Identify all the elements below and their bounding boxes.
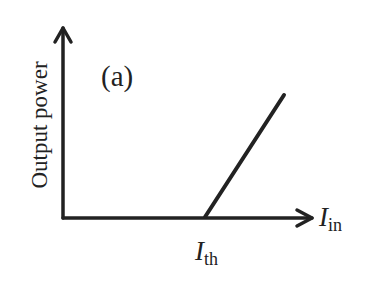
y-axis-label: Output power — [27, 61, 53, 188]
panel-label: (a) — [101, 60, 133, 93]
x-axis-label: Iin — [319, 202, 342, 236]
diagram-canvas — [0, 0, 365, 285]
threshold-label: Ith — [195, 236, 218, 270]
output-curve — [205, 95, 284, 217]
